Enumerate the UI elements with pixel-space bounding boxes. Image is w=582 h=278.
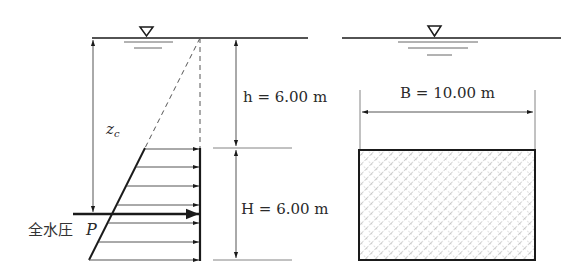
plate-crosshatch — [359, 150, 535, 260]
water-level-icon-right — [398, 26, 478, 55]
left-section: zc 全水圧 P h = 6.00 m H = 6.00 m — [28, 27, 329, 261]
resultant-symbol: P — [85, 220, 97, 239]
zc-label: zc — [105, 120, 120, 139]
H-label: H = 6.00 m — [241, 200, 329, 218]
dashed-pressure-extension — [145, 38, 200, 148]
hydrostatic-pressure-diagram: zc 全水圧 P h = 6.00 m H = 6.00 m B = 10.00… — [0, 0, 582, 278]
resultant-label-jp: 全水圧 — [28, 221, 73, 239]
pressure-arrows — [89, 149, 199, 260]
pressure-distribution-edge — [89, 148, 145, 260]
B-label: B = 10.00 m — [400, 84, 495, 102]
h-label: h = 6.00 m — [243, 88, 327, 106]
right-section: B = 10.00 m — [342, 26, 561, 260]
